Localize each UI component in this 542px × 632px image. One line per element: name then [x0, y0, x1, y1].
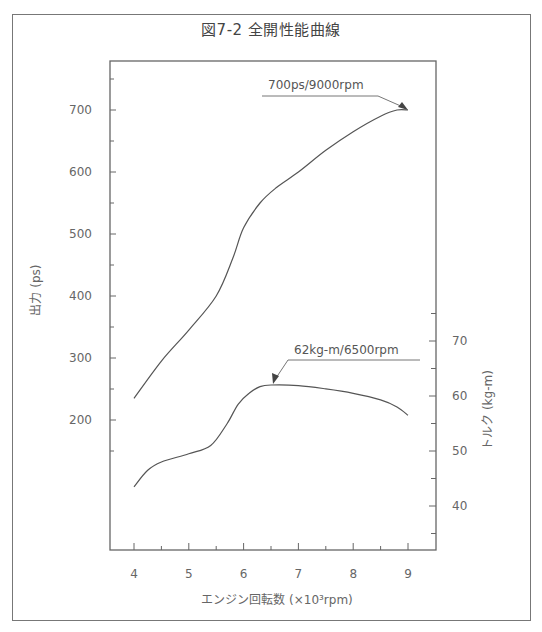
left-tick-label: 300 [69, 351, 92, 365]
right-tick-label: 70 [452, 334, 467, 348]
left-tick-label: 700 [69, 103, 92, 117]
x-axis-title: エンジン回転数 (×10³rpm) [201, 592, 353, 607]
right-tick-label: 40 [452, 499, 467, 513]
chart-area: 200300400500600700 40506070 456789 エンジン回… [0, 0, 542, 632]
x-tick-label: 7 [295, 567, 303, 581]
left-axis-title: 出力 (ps) [29, 264, 43, 315]
x-tick-label: 6 [240, 567, 248, 581]
torque-curve [134, 385, 408, 487]
left-tick-label: 400 [69, 289, 92, 303]
power-leader-line [262, 96, 403, 107]
left-tick-label: 600 [69, 165, 92, 179]
torque-peak-label: 62kg-m/6500rpm [294, 343, 399, 357]
x-tick-label: 4 [130, 567, 138, 581]
left-tick-label: 500 [69, 227, 92, 241]
left-tick-label: 200 [69, 413, 92, 427]
power-peak-label: 700ps/9000rpm [268, 78, 364, 92]
x-tick-label: 5 [185, 567, 193, 581]
x-tick-label: 8 [349, 567, 357, 581]
right-axis-title: トルク (kg-m) [481, 370, 495, 450]
x-axis: 456789 [130, 543, 412, 581]
x-tick-label: 9 [404, 567, 412, 581]
torque-leader-line [276, 360, 420, 378]
right-axis: 40506070 [429, 314, 467, 534]
right-tick-label: 60 [452, 389, 467, 403]
power-arrow-icon [398, 102, 408, 110]
right-tick-label: 50 [452, 444, 467, 458]
plot-box [110, 61, 436, 550]
left-axis: 200300400500600700 [69, 79, 116, 451]
